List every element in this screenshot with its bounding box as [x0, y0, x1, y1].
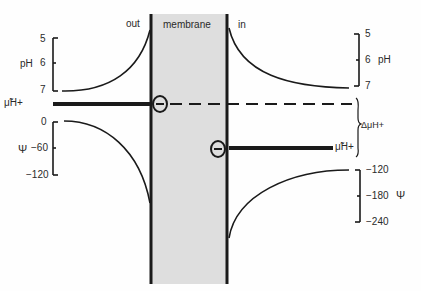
inside-ph-curve: [229, 28, 349, 88]
left-psi-tick-0: 0: [41, 117, 47, 127]
right-psi-tick-240: −240: [366, 217, 389, 227]
left-psi-tick-60: −60: [31, 143, 48, 153]
outside-ph-curve: [62, 30, 150, 91]
left-ph-tick-7: 7: [40, 85, 46, 95]
right-psi-tick-120: −120: [366, 165, 389, 175]
right-ph-tick-7: 7: [365, 81, 371, 91]
left-ph-bracket: [53, 38, 58, 91]
diagram-graphics: [0, 0, 421, 291]
left-ph-tick-6: 6: [40, 58, 46, 68]
right-psi-axis-label: Ψ: [396, 190, 405, 200]
left-psi-tick-120: −120: [26, 170, 49, 180]
outside-potential-curve: [64, 121, 150, 203]
inside-label: in: [238, 20, 246, 30]
right-ph-tick-5: 5: [365, 29, 371, 39]
right-psi-tick-180: −180: [366, 191, 389, 201]
inside-potential-curve: [229, 170, 349, 238]
outside-mu-label: μ̃H+: [4, 98, 23, 108]
right-ph-bracket: [354, 34, 359, 86]
membrane-potential-diagram: out membrane in 5 6 7 pH μ̃H+ 0 −60 −120…: [0, 0, 421, 291]
inside-mu-label: μ̃H+: [335, 142, 354, 152]
delta-mu-label: ΔμH+: [361, 120, 384, 130]
left-ph-tick-5: 5: [40, 34, 46, 44]
membrane-label: membrane: [163, 20, 211, 30]
negative-charge-outer-icon: [153, 96, 167, 112]
left-ph-axis-label: pH: [20, 59, 33, 69]
outside-label: out: [126, 19, 140, 29]
negative-charge-inner-icon: [211, 141, 225, 157]
left-psi-axis-label: Ψ: [18, 144, 27, 154]
left-psi-bracket: [53, 122, 58, 175]
right-psi-bracket: [355, 170, 360, 222]
right-ph-axis-label: pH: [378, 55, 391, 65]
right-ph-tick-6: 6: [365, 55, 371, 65]
